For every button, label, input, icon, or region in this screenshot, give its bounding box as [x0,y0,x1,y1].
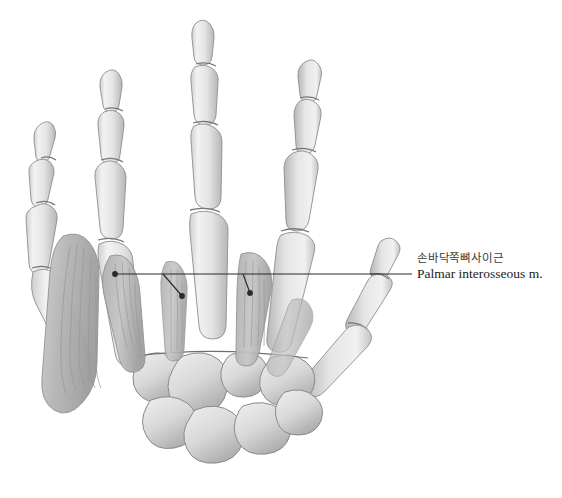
figure-canvas: 손바닥쪽뼈사이근 Palmar interosseous m. [0,0,562,498]
bone-distal-phalanx-4 [100,70,122,112]
bone-proximal-phalanx-4 [95,161,126,239]
leader-dot-fifth [112,271,118,277]
annotation-label: 손바닥쪽뼈사이근 Palmar interosseous m. [417,252,557,281]
bone-middle-phalanx-3 [191,65,218,125]
label-latin-text: Palmar interosseous m. [417,266,557,281]
bone-middle-phalanx-4 [98,110,124,164]
hand-skeleton-illustration [0,0,562,498]
bone-distal-phalanx-3 [192,20,214,65]
label-korean-text: 손바닥쪽뼈사이근 [417,252,557,265]
bone-proximal-phalanx-3 [191,124,222,209]
leader-dot-second [247,290,253,296]
leader-dot-fourth [179,293,185,299]
